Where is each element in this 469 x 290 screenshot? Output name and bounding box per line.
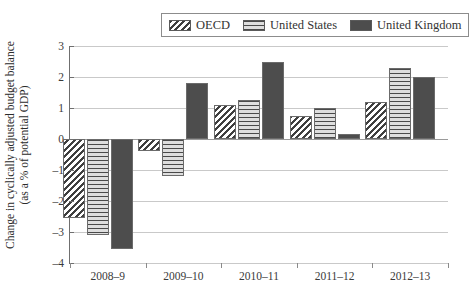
y-tick-label: 3 — [58, 40, 64, 52]
x-tick-mark — [221, 263, 222, 268]
y-tick-mark — [69, 77, 74, 78]
y-tick-label: 2 — [58, 71, 64, 83]
y-tick-mark — [69, 232, 74, 233]
horizontal-stripes-swatch-icon — [243, 20, 265, 31]
bar-oecd-2008-9 — [63, 139, 85, 218]
diagonal-stripes-swatch-icon — [169, 20, 191, 31]
bar-united-kingdom-2009-10 — [186, 83, 208, 139]
bar-united-states-2008-9 — [87, 139, 109, 235]
legend-label-united-kingdom: United Kingdom — [377, 19, 461, 32]
legend-entry-united-kingdom: United Kingdom — [350, 19, 461, 32]
bar-united-states-2010-11 — [238, 100, 260, 139]
y-axis-title-line1: Change in cyclically adjusted budget bal… — [3, 41, 17, 249]
solid-dark-swatch-icon — [350, 20, 372, 31]
legend-entry-united-states: United States — [243, 19, 337, 32]
plot-area — [70, 46, 448, 263]
bar-united-states-2009-10 — [162, 139, 184, 176]
y-axis-title: Change in cyclically adjusted budget bal… — [3, 41, 31, 249]
bar-oecd-2009-10 — [138, 139, 160, 151]
bar-united-states-2012-13 — [389, 68, 411, 139]
legend-label-united-states: United States — [270, 19, 337, 32]
y-tick-label: 1 — [58, 102, 64, 114]
y-tick-mark — [69, 139, 74, 140]
legend-label-oecd: OECD — [196, 19, 230, 32]
x-tick-label: 2009–10 — [163, 270, 203, 282]
bar-united-kingdom-2010-11 — [262, 62, 284, 140]
bar-oecd-2012-13 — [365, 102, 387, 139]
x-tick-mark — [372, 263, 373, 268]
x-tick-label: 2008–9 — [91, 270, 126, 282]
gridline-neg4 — [70, 263, 448, 264]
gridline-3 — [70, 46, 448, 47]
y-axis-tick-labels: 3210–1–2–3–4 — [44, 46, 64, 263]
bar-united-kingdom-2012-13 — [413, 77, 435, 139]
y-tick-mark — [69, 170, 74, 171]
legend-entry-oecd: OECD — [169, 19, 230, 32]
bar-united-kingdom-2011-12 — [338, 134, 360, 139]
y-tick-mark — [69, 201, 74, 202]
x-tick-mark — [70, 263, 71, 268]
y-tick-label: –3 — [53, 226, 65, 238]
x-tick-mark — [448, 263, 449, 268]
bar-oecd-2010-11 — [214, 105, 236, 139]
x-tick-label: 2011–12 — [315, 270, 355, 282]
y-tick-mark — [69, 108, 74, 109]
x-tick-mark — [297, 263, 298, 268]
x-tick-label: 2010–11 — [239, 270, 279, 282]
y-axis-title-wrap: Change in cyclically adjusted budget bal… — [0, 0, 34, 290]
y-axis-title-line2: (as a % of potential GDP) — [17, 41, 31, 249]
x-tick-mark — [146, 263, 147, 268]
y-tick-label: –4 — [53, 257, 65, 269]
x-tick-label: 2012–13 — [390, 270, 430, 282]
bar-united-kingdom-2008-9 — [111, 139, 133, 249]
chart-legend: OECD United States United Kingdom — [161, 13, 469, 37]
bar-united-states-2011-12 — [314, 108, 336, 139]
y-tick-mark — [69, 46, 74, 47]
bar-oecd-2011-12 — [290, 116, 312, 139]
